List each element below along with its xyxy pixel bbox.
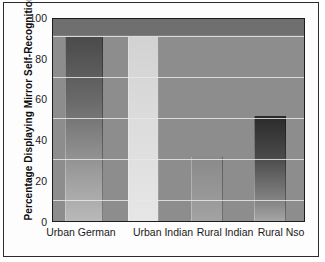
bar-rural-nso: [254, 116, 286, 221]
x-tick-label-rural-nso: Rural Nso: [245, 226, 317, 238]
gridline-100: [53, 36, 304, 37]
gridline-60: [53, 118, 304, 119]
y-tick-label: 60: [14, 94, 47, 105]
bar-chart: Percentage Displaying Mirror Self-Recogn…: [0, 0, 325, 262]
y-tick-label: 20: [14, 176, 47, 187]
gridline-20: [53, 200, 304, 201]
y-tick-label: 80: [14, 54, 47, 65]
plot-area: [52, 18, 305, 222]
bar-urban-german: [65, 37, 103, 221]
y-tick-label: 40: [14, 135, 47, 146]
gridline-40: [53, 159, 304, 160]
bar-rural-indian: [191, 157, 223, 221]
x-tick-label-urban-german: Urban German: [35, 226, 127, 238]
y-tick-label: 100: [14, 13, 47, 24]
bar-urban-indian: [128, 37, 159, 221]
gridline-80: [53, 77, 304, 78]
